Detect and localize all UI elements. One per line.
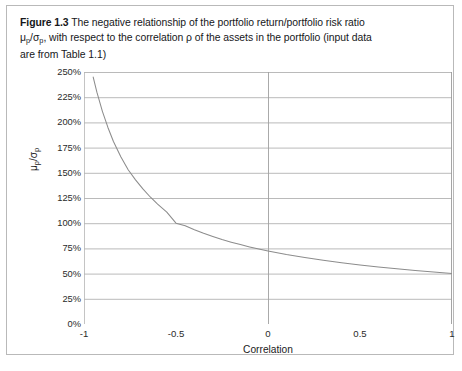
- y-axis-tick-label: 100%: [35, 218, 81, 228]
- figure-caption: Figure 1.3 The negative relationship of …: [20, 16, 440, 63]
- x-axis-tick-label: 0.5: [353, 328, 366, 339]
- x-axis-title-label: Correlation: [243, 344, 293, 355]
- plot-area: [84, 72, 452, 324]
- x-axis-tick-label: 1: [449, 328, 454, 339]
- y-axis-sigma-symbol: /σ: [28, 152, 39, 161]
- x-axis-tick-label: -0.5: [168, 328, 185, 339]
- caption-text-line3: are from Table 1.1): [20, 49, 106, 60]
- figure-container: Figure 1.3 The negative relationship of …: [6, 5, 454, 355]
- y-axis-tick-label: 250%: [35, 67, 81, 77]
- y-axis-tick-label: 25%: [35, 294, 81, 304]
- y-axis-tick-label: 50%: [35, 269, 81, 279]
- x-axis-tick-label: -1: [80, 328, 89, 339]
- y-axis-mu-symbol: μ: [28, 165, 39, 171]
- y-axis-tick-label: 150%: [35, 168, 81, 178]
- y-axis-tick-label: 225%: [35, 92, 81, 102]
- figure-number: Figure 1.3: [20, 17, 69, 28]
- y-axis-tick-label: 0%: [35, 319, 81, 329]
- x-axis-tick-labels: -1-0.500.51: [84, 328, 452, 344]
- y-axis-tick-label: 75%: [35, 243, 81, 253]
- x-axis-tick-label: 0: [265, 328, 270, 339]
- y-axis-mu-subscript: p: [32, 161, 41, 165]
- data-series-line: [93, 77, 452, 274]
- y-axis-tick-label: 125%: [35, 193, 81, 203]
- caption-text-line1: The negative relationship of the portfol…: [71, 17, 364, 28]
- y-axis-tick-label: 200%: [35, 117, 81, 127]
- caption-sigma-symbol: /σ: [30, 32, 39, 43]
- y-axis-tick-labels: 0%25%50%75%100%125%150%175%200%225%250%: [29, 72, 81, 324]
- chart-svg: [84, 72, 452, 324]
- caption-text-line2: , with respect to the correlation ρ of t…: [43, 32, 371, 43]
- x-axis-title: Correlation: [84, 344, 452, 355]
- y-axis-tick-label: 175%: [35, 143, 81, 153]
- y-axis-sigma-subscript: p: [32, 148, 41, 152]
- y-axis-title: μp/σp: [28, 148, 41, 171]
